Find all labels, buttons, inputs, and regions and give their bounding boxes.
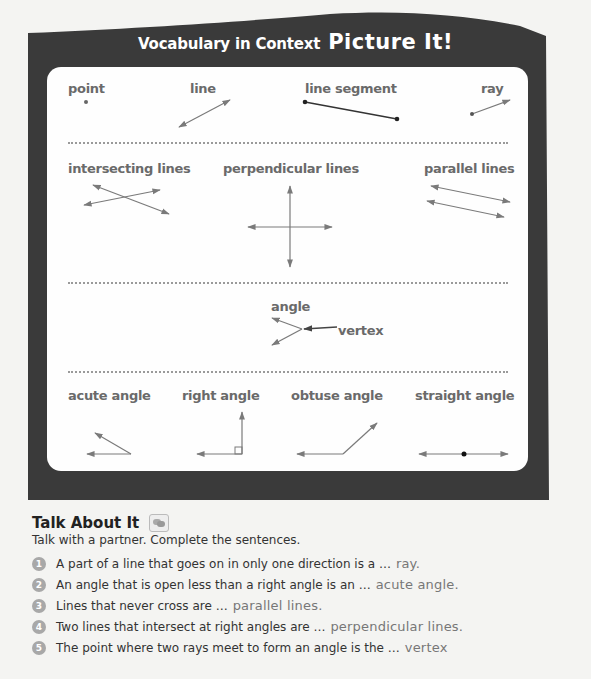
sentence-answer: vertex [405,640,448,655]
line-segment-diagram [303,100,400,122]
sentence-prompt: A part of a line that goes on in only on… [56,557,391,571]
vocabulary-panel: point line line segment ray intersecting… [47,67,528,471]
angle-diagram [272,318,337,345]
vertex-pointer-arrow [304,327,337,329]
line-diagram [179,100,230,127]
ray-diagram [470,100,510,116]
sentence-prompt: Two lines that intersect at right angles… [56,620,325,634]
sentence-answer: ray. [396,556,420,571]
straight-angle-diagram [419,452,508,457]
list-item: 5 The point where two rays meet to form … [32,637,582,658]
sentence-answer: parallel lines. [233,598,323,613]
talk-about-it-section: Talk About It Talk with a partner. Compl… [32,514,582,658]
title-vocabulary-in-context: Vocabulary in Context [138,35,320,53]
sentence-list: 1 A part of a line that goes on in only … [32,553,582,658]
sentence-prompt: The point where two rays meet to form an… [56,641,400,655]
right-angle-diagram [197,412,242,454]
title-picture-it: Picture It! [328,30,453,54]
number-badge: 4 [32,620,46,634]
parallel-lines-diagram [427,186,510,217]
diagrams-layer [47,67,528,471]
perpendicular-lines-diagram [248,186,332,267]
sentence-answer: acute angle. [376,577,459,592]
number-badge: 5 [32,641,46,655]
talk-heading: Talk About It [32,514,582,532]
list-item: 3 Lines that never cross are … parallel … [32,595,582,616]
number-badge: 2 [32,578,46,592]
list-item: 2 An angle that is open less than a righ… [32,574,582,595]
number-badge: 3 [32,599,46,613]
sentence-prompt: Lines that never cross are … [56,599,228,613]
talk-heading-text: Talk About It [32,514,139,532]
intersecting-lines-diagram [84,185,169,214]
number-badge: 1 [32,557,46,571]
speech-bubbles-icon [149,514,169,532]
acute-angle-diagram [87,433,131,454]
point-diagram [84,100,88,104]
page-title: Vocabulary in ContextPicture It! [0,30,591,54]
sentence-answer: perpendicular lines. [330,619,463,634]
list-item: 1 A part of a line that goes on in only … [32,553,582,574]
obtuse-angle-diagram [297,423,377,454]
sentence-prompt: An angle that is open less than a right … [56,578,371,592]
talk-instructions: Talk with a partner. Complete the senten… [32,533,582,547]
list-item: 4 Two lines that intersect at right angl… [32,616,582,637]
